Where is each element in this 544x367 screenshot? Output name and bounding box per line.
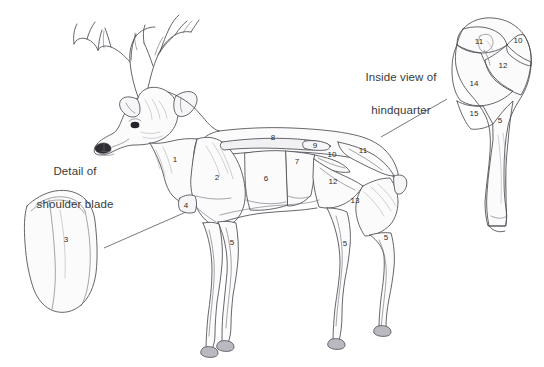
cut-region-loin <box>286 151 315 206</box>
cut-region-ribs <box>245 151 288 211</box>
hoof-front-right <box>201 347 218 358</box>
hoof-hind-right <box>374 326 391 337</box>
callout-shoulder-line2: shoulder blade <box>10 196 140 213</box>
hoof-front-left <box>217 341 234 352</box>
cut-region-hindleg-upper <box>356 178 398 236</box>
cut-region-shank-front <box>179 195 197 213</box>
callout-hindquarter-line1: Inside view of <box>338 69 464 86</box>
cut-region-front-legs <box>201 221 239 357</box>
deer-tail <box>394 175 407 194</box>
callout-hindquarter-line2: hindquarter <box>338 102 464 119</box>
cut-region-neck <box>150 139 197 204</box>
antlers-icon <box>74 15 199 97</box>
callout-hindquarter: Inside view of hindquarter <box>338 52 464 135</box>
hoof-hind-left <box>328 339 345 350</box>
callout-shoulder-blade: Detail of shoulder blade <box>10 146 140 229</box>
callout-shoulder-line1: Detail of <box>10 163 140 180</box>
deer-eye <box>131 122 140 128</box>
